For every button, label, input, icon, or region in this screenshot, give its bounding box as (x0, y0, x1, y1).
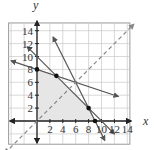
y-tick-label: 10 (22, 51, 34, 63)
linear-programming-graph: 24681012142468101214 x y (0, 0, 154, 150)
x-tick-label: 2 (47, 123, 53, 135)
x-tick-label: 12 (109, 123, 120, 135)
y-tick-label: 12 (22, 38, 33, 50)
y-tick-label: 2 (28, 102, 34, 114)
x-tick-label: 10 (96, 123, 108, 135)
y-tick-label: 8 (28, 63, 34, 75)
x-tick-label: 6 (73, 123, 79, 135)
y-tick-label: 4 (28, 89, 34, 101)
x-tick-label: 14 (122, 123, 134, 135)
x-axis-label: x (142, 114, 149, 128)
vertex-point (35, 67, 40, 72)
x-tick-label: 4 (60, 123, 66, 135)
y-tick-label: 14 (22, 25, 34, 37)
y-axis-label: y (32, 0, 39, 12)
x-tick-label: 8 (86, 123, 92, 135)
vertex-point (54, 74, 59, 79)
y-tick-label: 6 (28, 76, 34, 88)
vertex-point (86, 106, 91, 111)
